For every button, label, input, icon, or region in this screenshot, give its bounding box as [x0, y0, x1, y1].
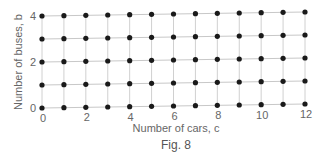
data-point — [280, 10, 285, 15]
data-point — [193, 57, 198, 62]
data-point — [39, 105, 44, 110]
data-point — [237, 56, 242, 61]
data-point — [259, 56, 264, 61]
data-point — [149, 35, 154, 40]
data-point — [193, 11, 198, 16]
data-point — [280, 102, 285, 107]
data-point — [61, 82, 66, 87]
data-point — [39, 36, 44, 41]
data-point — [83, 13, 88, 18]
data-point — [259, 33, 264, 38]
data-point — [171, 57, 176, 62]
data-point — [215, 11, 220, 16]
data-point — [259, 79, 264, 84]
data-point — [237, 33, 242, 38]
y-tick-label: 0 — [30, 102, 36, 114]
data-point — [280, 79, 285, 84]
data-point — [61, 13, 66, 18]
data-point — [237, 102, 242, 107]
data-point — [237, 10, 242, 15]
data-point — [280, 56, 285, 61]
x-tick-label: 6 — [171, 110, 177, 122]
data-point — [171, 103, 176, 108]
y-tick-label: 2 — [30, 56, 36, 68]
x-tick-label: 8 — [215, 109, 221, 121]
data-point — [105, 35, 110, 40]
data-point — [127, 81, 132, 86]
data-point — [127, 35, 132, 40]
data-point — [171, 11, 176, 16]
data-point — [105, 81, 110, 86]
data-point — [127, 12, 132, 17]
data-point — [302, 32, 307, 37]
scatter-chart: 024024681012Number of cars, cNumber of b… — [0, 0, 326, 158]
data-point — [302, 78, 307, 83]
data-point — [302, 9, 307, 14]
data-point — [83, 36, 88, 41]
data-point — [280, 33, 285, 38]
y-tick-label: 4 — [30, 10, 36, 22]
data-point — [259, 102, 264, 107]
data-point — [39, 13, 44, 18]
x-tick-label: 12 — [300, 108, 312, 120]
data-point — [215, 57, 220, 62]
data-point — [171, 80, 176, 85]
x-axis-label: Number of cars, c — [133, 122, 220, 134]
data-point — [105, 12, 110, 17]
y-axis-label: Number of buses, b — [12, 14, 24, 110]
data-point — [105, 58, 110, 63]
data-point — [83, 82, 88, 87]
data-point — [193, 34, 198, 39]
figure-caption: Fig. 8 — [161, 138, 191, 152]
data-point — [215, 34, 220, 39]
x-tick-label: 10 — [256, 109, 268, 121]
data-point — [171, 34, 176, 39]
x-tick-label: 4 — [128, 111, 134, 123]
data-point — [149, 81, 154, 86]
data-point — [39, 59, 44, 64]
data-point — [127, 104, 132, 109]
data-point — [149, 58, 154, 63]
data-point — [215, 80, 220, 85]
data-point — [61, 105, 66, 110]
data-point — [105, 104, 110, 109]
x-tick-label: 0 — [40, 112, 46, 124]
data-point — [61, 59, 66, 64]
data-point — [302, 101, 307, 106]
x-tick-label: 2 — [84, 111, 90, 123]
data-point — [259, 10, 264, 15]
data-point — [83, 105, 88, 110]
data-point — [149, 104, 154, 109]
data-point — [39, 82, 44, 87]
data-point — [127, 58, 132, 63]
data-point — [149, 12, 154, 17]
data-point — [215, 103, 220, 108]
data-point — [83, 59, 88, 64]
data-point — [193, 80, 198, 85]
data-point — [61, 36, 66, 41]
data-point — [237, 79, 242, 84]
data-point — [193, 103, 198, 108]
data-point — [302, 55, 307, 60]
